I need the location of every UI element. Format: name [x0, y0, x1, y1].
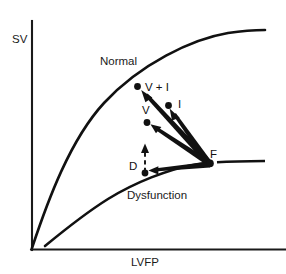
ventricular-function-diagram: SV LVFP Normal Dysfunction: [0, 0, 286, 274]
point-i-dot: [165, 102, 172, 109]
figure-root: SV LVFP Normal Dysfunction: [0, 0, 286, 274]
point-d-dot: [142, 170, 149, 177]
axes-group: SV LVFP: [12, 21, 285, 268]
arrow-f-to-d: [148, 162, 210, 175]
point-v-plus-i-dot: [134, 83, 141, 90]
point-i: I: [165, 98, 181, 110]
point-d-label: D: [129, 160, 137, 172]
arrow-d-upward-dashed-head: [141, 143, 149, 153]
point-v-dot: [144, 119, 151, 126]
normal-curve: [32, 30, 265, 248]
dysfunction-curve: [45, 163, 210, 246]
point-i-label: I: [178, 98, 181, 110]
point-f-dot: [206, 160, 214, 168]
x-axis-label: LVFP: [131, 256, 159, 268]
curves-group: Normal Dysfunction: [32, 30, 265, 248]
point-v-plus-i-label: V + I: [145, 81, 169, 93]
point-v-plus-i: V + I: [134, 81, 169, 93]
arrow-f-to-d-head: [148, 166, 158, 174]
dysfunction-curve-tail: [217, 161, 265, 162]
point-v-label: V: [142, 104, 150, 116]
arrows-group: [141, 90, 211, 174]
dysfunction-curve-label: Dysfunction: [127, 189, 187, 201]
point-v: V: [142, 104, 150, 126]
y-axis-label: SV: [12, 33, 28, 45]
arrow-d-upward-dashed: [141, 143, 149, 172]
normal-curve-label: Normal: [100, 55, 137, 67]
arrow-f-to-d-shaft: [154, 162, 210, 172]
point-f-label: F: [210, 148, 217, 160]
